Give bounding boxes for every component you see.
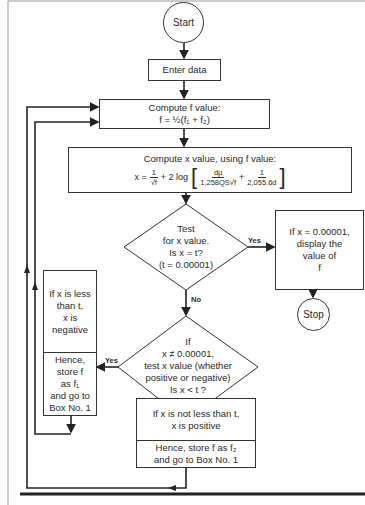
- decision-line: positive or negative): [145, 372, 230, 384]
- start-terminal: Start: [163, 2, 204, 43]
- fraction-1: 1 √f: [150, 168, 158, 187]
- display-line: value of: [303, 250, 336, 262]
- decision-line: Test: [177, 223, 194, 235]
- compute-x-title: Compute x value, using f value:: [144, 153, 277, 165]
- stop-label: Stop: [303, 309, 324, 320]
- decision-line: (t = 0.00001): [159, 259, 213, 271]
- formula-lhs: x =: [134, 171, 146, 183]
- box-line: negative: [52, 324, 88, 336]
- decision-line: for x value.: [163, 235, 209, 247]
- positive-box: If x is not less than t, x is positive H…: [136, 398, 256, 468]
- fraction-3-numerator: 1: [258, 168, 266, 178]
- enter-data-box: Enter data: [148, 59, 221, 81]
- box-line: If x is less: [49, 288, 91, 300]
- box-line: and go to Box No. 1: [154, 454, 238, 466]
- compute-x-box: Compute x value, using f value: x = 1 √f…: [68, 147, 352, 193]
- display-line: f: [318, 262, 321, 274]
- box-line: If x is not less than t,: [153, 408, 240, 420]
- fraction-3: 1 2,055.6d: [247, 168, 276, 187]
- positive-condition: If x is not less than t, x is positive: [137, 399, 255, 440]
- compute-f-formula: f = ½(f₁ + f₂): [159, 114, 210, 126]
- fraction-1-numerator: 1: [150, 168, 158, 178]
- decision-line: Is x < t ?: [170, 384, 206, 396]
- test-sign-yes-label: Yes: [105, 356, 118, 365]
- box-line: x is: [63, 312, 77, 324]
- fraction-3-denominator: 2,055.6d: [247, 178, 276, 187]
- negative-box: If x is less than t, x is negative Hence…: [43, 270, 97, 416]
- fraction-2: dμ 1,258QS√f: [200, 168, 236, 187]
- fraction-2-numerator: dμ: [212, 168, 225, 178]
- formula-log-term: + 2 log: [161, 171, 188, 183]
- fraction-2-denominator: 1,258QS√f: [200, 178, 236, 187]
- positive-action: Hence, store f as f₂ and go to Box No. 1: [137, 440, 255, 467]
- box-line: than t,: [57, 300, 83, 312]
- decision-line: Is x = t?: [169, 247, 203, 259]
- box-line: as f₁: [61, 378, 80, 390]
- compute-x-formula: x = 1 √f + 2 log [ dμ 1,258QS√f + 1 2,05…: [134, 167, 285, 187]
- enter-data-label: Enter data: [163, 64, 207, 76]
- decision-line: If: [185, 336, 190, 348]
- test-sign-decision: If x ≠ 0.00001, test x value (whether po…: [128, 330, 248, 402]
- right-bracket: ]: [280, 167, 286, 187]
- box-line: x is positive: [171, 420, 220, 432]
- fraction-1-denominator: √f: [151, 178, 157, 187]
- stop-terminal: Stop: [297, 298, 330, 331]
- negative-action: Hence, store f as f₁ and go to Box No. 1: [44, 352, 96, 415]
- box-line: and go to: [50, 390, 90, 402]
- test-x-decision: Test for x value. Is x = t? (t = 0.00001…: [140, 218, 232, 276]
- display-f-box: If x = 0.00001, display the value of f: [275, 210, 364, 290]
- compute-f-box: Compute f value: f = ½(f₁ + f₂): [99, 99, 270, 129]
- decision-line: test x value (whether: [144, 360, 232, 372]
- compute-f-title: Compute f value:: [149, 102, 221, 114]
- box-line: Hence,: [55, 354, 85, 366]
- display-line: If x = 0.00001,: [289, 226, 349, 238]
- start-label: Start: [173, 17, 194, 28]
- test-x-no-label: No: [191, 295, 201, 304]
- display-line: display the: [297, 238, 342, 250]
- box-line: Hence, store f as f₂: [156, 442, 237, 454]
- box-line: Box No. 1: [49, 402, 91, 414]
- left-bracket: [: [191, 167, 197, 187]
- box-line: store f: [57, 366, 83, 378]
- formula-plus: +: [239, 171, 244, 183]
- negative-condition: If x is less than t, x is negative: [44, 271, 96, 352]
- test-x-yes-label: Yes: [248, 236, 261, 245]
- decision-line: x ≠ 0.00001,: [162, 348, 214, 360]
